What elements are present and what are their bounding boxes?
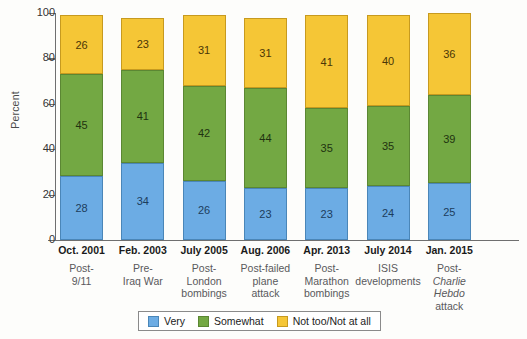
bar-segment-somewhat[interactable]: 39 <box>428 95 471 184</box>
bar-segment-not-too-not-at-all[interactable]: 23 <box>121 18 164 70</box>
bar-segment-not-too-not-at-all[interactable]: 36 <box>428 13 471 95</box>
legend-item[interactable]: Somewhat <box>198 315 264 327</box>
bar-value-label: 41 <box>321 56 333 68</box>
bar-value-label: 35 <box>382 140 394 152</box>
bar-value-label: 25 <box>443 206 455 218</box>
bar-segment-not-too-not-at-all[interactable]: 40 <box>367 15 410 106</box>
bar-group[interactable]: 233541 <box>305 13 348 240</box>
bar-segment-not-too-not-at-all[interactable]: 31 <box>183 15 226 85</box>
bar-value-label: 36 <box>443 48 455 60</box>
legend-swatch-icon <box>277 316 288 327</box>
chart-legend: VerySomewhatNot too/Not at all <box>138 311 381 331</box>
bar-value-label: 23 <box>259 208 271 220</box>
bar-group[interactable]: 243540 <box>367 13 410 240</box>
bar-value-label: 24 <box>382 207 394 219</box>
y-tick-label: 40 <box>11 142 55 154</box>
legend-item[interactable]: Very <box>148 315 185 327</box>
bar-segment-very[interactable]: 34 <box>121 163 164 240</box>
bar-segment-very[interactable]: 23 <box>244 188 287 240</box>
bar-segment-somewhat[interactable]: 35 <box>367 106 410 185</box>
bar-value-label: 26 <box>75 39 87 51</box>
bar-value-label: 42 <box>198 127 210 139</box>
bar-value-label: 44 <box>259 132 271 144</box>
legend-item[interactable]: Not too/Not at all <box>277 315 371 327</box>
bar-segment-very[interactable]: 28 <box>60 176 103 240</box>
bar-segment-very[interactable]: 25 <box>428 183 471 240</box>
bar-value-label: 31 <box>198 44 210 56</box>
x-axis-label-description: Post-CharlieHebdoattack <box>411 262 487 312</box>
y-tick-label: 80 <box>11 51 55 63</box>
bar-segment-somewhat[interactable]: 45 <box>60 74 103 176</box>
bar-value-label: 40 <box>382 55 394 67</box>
bar-group[interactable]: 234431 <box>244 13 287 240</box>
bar-segment-very[interactable]: 26 <box>183 181 226 240</box>
bar-segment-very[interactable]: 24 <box>367 186 410 240</box>
bar-value-label: 39 <box>443 133 455 145</box>
bar-segment-very[interactable]: 23 <box>305 188 348 240</box>
bar-group[interactable]: 344123 <box>121 13 164 240</box>
x-axis-label-line: Post- <box>411 262 487 275</box>
bar-value-label: 35 <box>321 142 333 154</box>
bar-segment-somewhat[interactable]: 35 <box>305 108 348 187</box>
x-axis-label-line: Charlie <box>411 275 487 288</box>
bar-value-label: 45 <box>75 119 87 131</box>
y-tick-label: 20 <box>11 188 55 200</box>
legend-swatch-icon <box>198 316 209 327</box>
bar-segment-not-too-not-at-all[interactable]: 26 <box>60 15 103 74</box>
bar-segment-somewhat[interactable]: 41 <box>121 70 164 163</box>
bar-value-label: 31 <box>259 47 271 59</box>
legend-label: Very <box>164 315 185 327</box>
x-axis-label: Jan. 2015Post-CharlieHebdoattack <box>411 244 487 312</box>
legend-swatch-icon <box>148 316 159 327</box>
legend-label: Somewhat <box>214 315 264 327</box>
x-axis-label-line: attack <box>411 300 487 313</box>
y-tick-label: 100 <box>11 6 55 18</box>
stacked-bar-chart: Percent 100806040200 2845263441232642312… <box>0 0 527 339</box>
bar-value-label: 26 <box>198 204 210 216</box>
plot-area: 2845263441232642312344312335412435402539… <box>55 13 519 240</box>
bar-group[interactable]: 264231 <box>183 13 226 240</box>
y-tick-label: 60 <box>11 97 55 109</box>
legend-label: Not too/Not at all <box>293 315 371 327</box>
bar-value-label: 34 <box>137 195 149 207</box>
bar-segment-somewhat[interactable]: 44 <box>244 88 287 188</box>
x-axis-line <box>55 240 519 241</box>
bar-segment-not-too-not-at-all[interactable]: 41 <box>305 15 348 108</box>
bar-value-label: 41 <box>137 110 149 122</box>
x-axis-label-date: Jan. 2015 <box>411 244 487 256</box>
x-axis-label-line: bombings <box>289 287 365 300</box>
bar-value-label: 23 <box>137 38 149 50</box>
x-axis-label-line: Hebdo <box>411 287 487 300</box>
bar-segment-not-too-not-at-all[interactable]: 31 <box>244 18 287 88</box>
bar-value-label: 28 <box>75 202 87 214</box>
bar-group[interactable]: 284526 <box>60 13 103 240</box>
bar-segment-somewhat[interactable]: 42 <box>183 86 226 181</box>
bar-value-label: 23 <box>321 208 333 220</box>
bar-group[interactable]: 253936 <box>428 13 471 240</box>
